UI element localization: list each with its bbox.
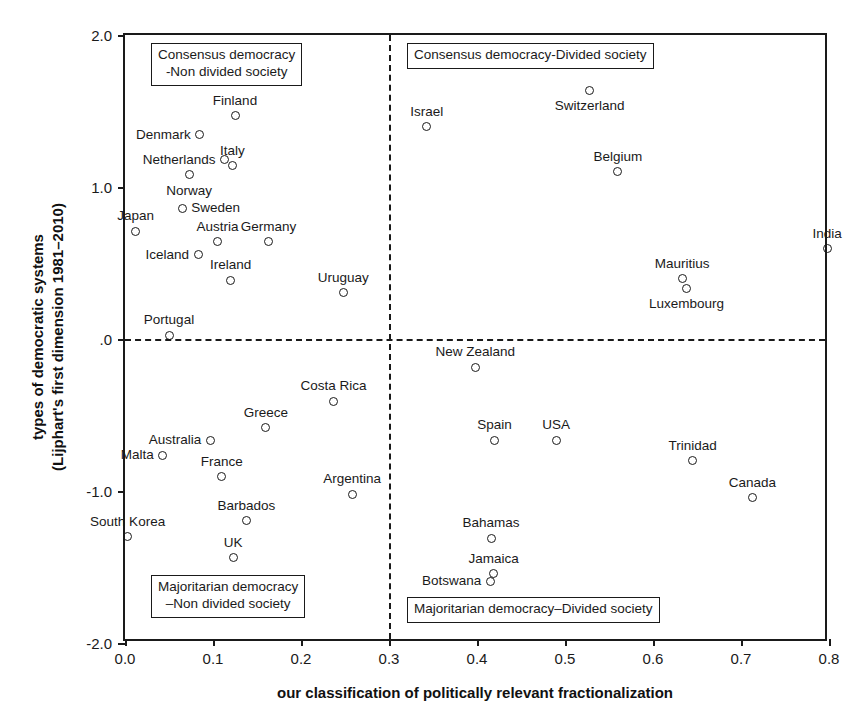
y-tick: [118, 187, 125, 189]
annotation-line: Consensus democracy-Divided society: [414, 47, 647, 64]
data-point-label: Germany: [241, 219, 297, 233]
data-point-label: Denmark: [136, 128, 191, 142]
data-point[interactable]: [217, 472, 226, 481]
data-point-label: Luxembourg: [649, 297, 724, 311]
data-point[interactable]: [261, 423, 270, 432]
data-point-label: Trinidad: [668, 438, 716, 452]
data-point[interactable]: [131, 227, 140, 236]
y-tick-label: -1.0: [86, 483, 112, 500]
data-point-label: South Korea: [90, 514, 165, 528]
data-point-label: India: [813, 226, 842, 240]
y-tick-label: 2.0: [91, 27, 112, 44]
data-point[interactable]: [194, 250, 203, 259]
x-tick-label: 0.5: [555, 650, 576, 667]
x-tick: [389, 639, 391, 646]
data-point-label: Iceland: [145, 248, 189, 262]
y-tick-label: -2.0: [86, 635, 112, 652]
data-point-label: Italy: [220, 143, 245, 157]
x-tick-label: 0.1: [203, 650, 224, 667]
x-tick-label: 0.6: [643, 650, 664, 667]
data-point-label: Portugal: [144, 313, 194, 327]
x-tick: [125, 639, 127, 646]
data-point-label: Argentina: [323, 472, 381, 486]
data-point[interactable]: [585, 86, 594, 95]
data-point[interactable]: [231, 111, 240, 120]
data-point-label: Japan: [117, 209, 154, 223]
data-point[interactable]: [229, 553, 238, 562]
data-point-label: Ireland: [210, 258, 251, 272]
data-point-label: Netherlands: [143, 153, 216, 167]
data-point[interactable]: [228, 161, 237, 170]
y-tick-label: .0: [99, 331, 112, 348]
x-tick: [213, 639, 215, 646]
data-point[interactable]: [264, 237, 273, 246]
y-tick: [118, 339, 125, 341]
data-point-label: Bahamas: [463, 516, 520, 530]
y-axis-title-line2: (Lijphart's first dimension 1981–2010): [48, 33, 68, 641]
chart-page: types of democratic systems (Lijphart's …: [0, 0, 851, 722]
x-tick-label: 0.0: [115, 650, 136, 667]
horizontal-zero-line: [125, 339, 825, 341]
data-point-label: France: [201, 454, 243, 468]
data-point[interactable]: [490, 436, 499, 445]
data-point-label: Australia: [149, 433, 202, 447]
y-axis-title: types of democratic systems (Lijphart's …: [28, 33, 84, 641]
data-point-label: Uruguay: [318, 270, 369, 284]
data-point[interactable]: [178, 204, 187, 213]
annotation-line: Consensus democracy: [158, 47, 295, 64]
x-tick: [477, 639, 479, 646]
data-point-label: Sweden: [191, 202, 240, 216]
y-tick: [118, 491, 125, 493]
vertical-threshold-line: [389, 35, 391, 639]
x-tick: [829, 639, 831, 646]
data-point[interactable]: [422, 122, 431, 131]
x-tick-label: 0.2: [291, 650, 312, 667]
data-point[interactable]: [348, 490, 357, 499]
data-point[interactable]: [185, 170, 194, 179]
data-point[interactable]: [678, 274, 687, 283]
data-point-label: USA: [542, 418, 570, 432]
x-tick-label: 0.7: [731, 650, 752, 667]
data-point-label: Israel: [410, 104, 443, 118]
x-tick: [741, 639, 743, 646]
data-point[interactable]: [195, 130, 204, 139]
data-point-label: Switzerland: [555, 99, 625, 113]
data-point[interactable]: [165, 331, 174, 340]
data-point-label: UK: [224, 535, 243, 549]
data-point-label: Belgium: [593, 149, 642, 163]
data-point[interactable]: [487, 534, 496, 543]
data-point-label: Botswana: [422, 575, 481, 589]
y-tick: [118, 35, 125, 37]
data-point-label: Malta: [121, 449, 154, 463]
data-point-label: Greece: [244, 405, 288, 419]
x-tick-label: 0.8: [819, 650, 840, 667]
data-point-label: Canada: [729, 475, 776, 489]
data-point[interactable]: [688, 456, 697, 465]
data-point[interactable]: [329, 397, 338, 406]
data-point-label: Finland: [213, 93, 257, 107]
data-point[interactable]: [213, 237, 222, 246]
data-point[interactable]: [471, 363, 480, 372]
data-point[interactable]: [486, 577, 495, 586]
data-point[interactable]: [158, 451, 167, 460]
x-tick-label: 0.3: [379, 650, 400, 667]
data-point-label: New Zealand: [435, 345, 515, 359]
data-point[interactable]: [552, 436, 561, 445]
data-point[interactable]: [339, 288, 348, 297]
data-point[interactable]: [206, 436, 215, 445]
data-point[interactable]: [226, 276, 235, 285]
data-point[interactable]: [748, 493, 757, 502]
x-tick: [565, 639, 567, 646]
data-point[interactable]: [613, 167, 622, 176]
data-point[interactable]: [242, 516, 251, 525]
data-point[interactable]: [682, 284, 691, 293]
y-tick-label: 1.0: [91, 179, 112, 196]
data-point-label: Austria: [196, 219, 238, 233]
data-point[interactable]: [123, 532, 132, 541]
y-axis-title-line1: types of democratic systems: [28, 33, 48, 641]
annotation-line: -Non divided society: [158, 64, 295, 81]
data-point-label: Costa Rica: [301, 379, 367, 393]
data-point[interactable]: [823, 244, 832, 253]
plot-area: 0.00.10.20.30.40.50.60.70.8 2.01.0.0-1.0…: [123, 33, 827, 641]
x-tick: [301, 639, 303, 646]
